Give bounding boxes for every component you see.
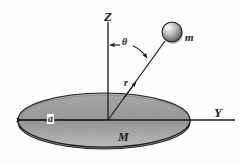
y-axis-label: Y bbox=[214, 106, 222, 119]
disk-body bbox=[18, 93, 190, 149]
sphere-mass-m bbox=[162, 22, 183, 44]
polar-angle-label: θ bbox=[122, 37, 127, 47]
z-axis-label: Z bbox=[104, 10, 112, 23]
physics-diagram: Z Y m M r θ a bbox=[0, 0, 240, 165]
disk-mass-label: M bbox=[118, 131, 129, 143]
sphere-body bbox=[162, 22, 182, 42]
radial-distance-label: r bbox=[124, 78, 128, 88]
theta-angle-marker bbox=[110, 45, 147, 58]
disk-radius-label: a bbox=[47, 114, 54, 124]
point-mass-label: m bbox=[185, 32, 194, 43]
theta-arrow-to-r bbox=[133, 46, 147, 58]
